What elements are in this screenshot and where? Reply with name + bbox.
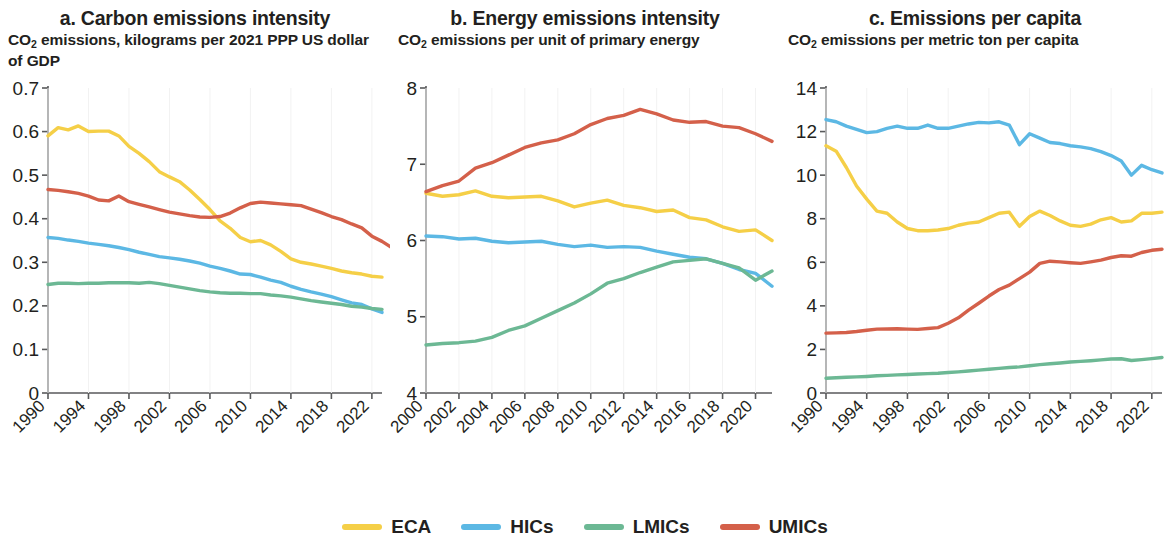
y-axis-tick-label: 10 <box>796 165 817 186</box>
y-axis-tick-label: 0.5 <box>13 165 39 186</box>
x-axis-tick-label: 2010 <box>211 396 251 436</box>
legend-label: UMICs <box>769 516 828 538</box>
series-line-umics <box>426 109 772 191</box>
x-axis-tick-label: 2010 <box>990 396 1030 436</box>
y-axis-tick-label: 0.1 <box>13 339 39 360</box>
y-axis-tick-label: 14 <box>796 78 818 99</box>
y-axis-tick-label: 2 <box>806 339 817 360</box>
panel-b: b. Energy emissions intensity CO2 emissi… <box>390 0 780 505</box>
y-axis-tick-label: 5 <box>406 306 417 327</box>
legend-swatch-icon <box>461 524 501 530</box>
x-axis-tick-label: 2014 <box>1031 396 1071 436</box>
panel-c-subtitle: CO2 emissions per metric ton per capita <box>780 30 1170 78</box>
panel-b-subtitle-post: emissions per unit of primary energy <box>427 31 700 48</box>
x-axis-tick-label: 2002 <box>130 396 170 436</box>
y-axis-tick-label: 4 <box>806 295 817 316</box>
series-line-eca <box>826 146 1162 231</box>
legend-item-hics[interactable]: HICs <box>461 516 553 538</box>
y-axis-tick-label: 0.3 <box>13 252 39 273</box>
figure-root: a. Carbon emissions intensity CO2 emissi… <box>0 0 1170 548</box>
x-axis-tick-label: 1994 <box>827 396 867 436</box>
panel-b-title: b. Energy emissions intensity <box>390 0 780 30</box>
panel-a-title: a. Carbon emissions intensity <box>0 0 390 30</box>
panel-a-plot: 00.10.20.30.40.50.60.7199019941998200220… <box>0 78 390 498</box>
series-line-lmics <box>826 357 1162 378</box>
legend-item-umics[interactable]: UMICs <box>720 516 828 538</box>
legend-swatch-icon <box>342 524 382 530</box>
x-axis-tick-label: 2022 <box>333 396 373 436</box>
panel-c-subtitle-sub: 2 <box>811 38 817 50</box>
panel-b-subtitle: CO2 emissions per unit of primary energy <box>390 30 780 78</box>
x-axis-tick-label: 2018 <box>1072 396 1112 436</box>
panel-c-plot: 0246810121419901994199820022006201020142… <box>780 78 1170 498</box>
y-axis-tick-label: 0.4 <box>13 208 40 229</box>
x-axis-tick-label: 2010 <box>551 396 591 436</box>
legend-label: ECA <box>391 516 431 538</box>
panel-c: c. Emissions per capita CO2 emissions pe… <box>780 0 1170 505</box>
y-axis-tick-label: 6 <box>806 252 817 273</box>
series-line-umics <box>826 249 1162 333</box>
x-axis-tick-label: 2022 <box>1112 396 1152 436</box>
x-axis-tick-label: 2006 <box>171 396 211 436</box>
x-axis-tick-label: 1998 <box>90 396 130 436</box>
panel-c-subtitle-post: emissions per metric ton per capita <box>817 31 1079 48</box>
panel-a-subtitle-sub: 2 <box>31 38 37 50</box>
y-axis-tick-label: 12 <box>796 121 817 142</box>
series-line-eca <box>426 191 772 241</box>
x-axis-tick-label: 2004 <box>453 396 493 436</box>
series-line-hics <box>48 237 382 312</box>
y-axis-tick-label: 0.6 <box>13 121 39 142</box>
x-axis-tick-label: 2014 <box>252 396 292 436</box>
panel-a: a. Carbon emissions intensity CO2 emissi… <box>0 0 390 505</box>
panel-c-chart: 0246810121419901994199820022006201020142… <box>780 78 1170 498</box>
x-axis-tick-label: 2008 <box>518 396 558 436</box>
x-axis-tick-label: 1990 <box>787 396 827 436</box>
panel-container: a. Carbon emissions intensity CO2 emissi… <box>0 0 1170 505</box>
x-axis-tick-label: 1990 <box>9 396 49 436</box>
panel-a-subtitle: CO2 emissions, kilograms per 2021 PPP US… <box>0 30 390 78</box>
x-axis-tick-label: 1994 <box>49 396 89 436</box>
x-axis-tick-label: 2012 <box>584 396 624 436</box>
legend-swatch-icon <box>584 524 624 530</box>
legend-item-lmics[interactable]: LMICs <box>584 516 690 538</box>
series-line-hics <box>826 120 1162 176</box>
x-axis-tick-label: 2000 <box>390 396 427 436</box>
x-axis-tick-label: 2006 <box>486 396 526 436</box>
x-axis-tick-label: 2014 <box>617 396 657 436</box>
legend-label: HICs <box>510 516 553 538</box>
x-axis-tick-label: 2018 <box>683 396 723 436</box>
x-axis-tick-label: 2002 <box>420 396 460 436</box>
y-axis-tick-label: 7 <box>406 154 417 175</box>
panel-b-subtitle-pre: CO <box>398 31 421 48</box>
y-axis-tick-label: 0.7 <box>13 78 39 99</box>
panel-a-chart: 00.10.20.30.40.50.60.7199019941998200220… <box>0 78 390 498</box>
y-axis-tick-label: 8 <box>806 208 817 229</box>
panel-c-subtitle-pre: CO <box>788 31 811 48</box>
x-axis-tick-label: 1998 <box>868 396 908 436</box>
panel-a-subtitle-post: emissions, kilograms per 2021 PPP US dol… <box>8 31 369 69</box>
legend-swatch-icon <box>720 524 760 530</box>
y-axis-tick-label: 8 <box>406 78 417 99</box>
x-axis-tick-label: 2006 <box>950 396 990 436</box>
y-axis-tick-label: 0.2 <box>13 295 39 316</box>
legend-label: LMICs <box>633 516 690 538</box>
legend-item-eca[interactable]: ECA <box>342 516 431 538</box>
panel-a-subtitle-pre: CO <box>8 31 31 48</box>
x-axis-tick-label: 2020 <box>716 396 756 436</box>
panel-b-subtitle-sub: 2 <box>421 38 427 50</box>
series-line-lmics <box>426 259 772 345</box>
panel-b-plot: 4567820002002200420062008201020122014201… <box>390 78 780 498</box>
x-axis-tick-label: 2016 <box>650 396 690 436</box>
x-axis-tick-label: 2002 <box>909 396 949 436</box>
panel-b-chart: 4567820002002200420062008201020122014201… <box>390 78 780 498</box>
y-axis-tick-label: 6 <box>406 230 417 251</box>
x-axis-tick-label: 2018 <box>292 396 332 436</box>
chart-legend: ECAHICsLMICsUMICs <box>0 505 1170 548</box>
panel-c-title: c. Emissions per capita <box>780 0 1170 30</box>
